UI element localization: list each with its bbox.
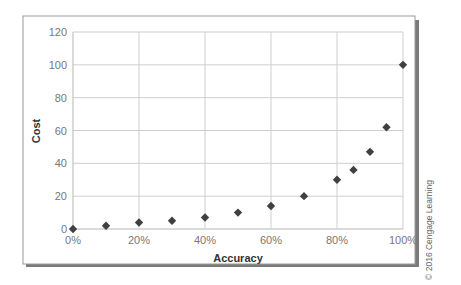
- y-tick-label: 80: [55, 92, 67, 104]
- x-tick-label: 80%: [326, 234, 348, 246]
- chart-figure: 020406080100120 0%20%40%60%80%100% Accur…: [0, 0, 461, 285]
- y-tick-label: 100: [49, 59, 67, 71]
- y-tick-label: 60: [55, 125, 67, 137]
- x-tick-label: 0%: [65, 234, 81, 246]
- copyright-notice: © 2016 Cengage Learning: [424, 180, 434, 280]
- y-tick-label: 40: [55, 157, 67, 169]
- x-tick-label: 60%: [260, 234, 282, 246]
- y-tick-label: 20: [55, 190, 67, 202]
- y-tick-label: 120: [49, 26, 67, 38]
- x-tick-label: 100%: [389, 234, 417, 246]
- x-axis-title: Accuracy: [213, 252, 263, 264]
- x-tick-label: 20%: [128, 234, 150, 246]
- y-axis-title: Cost: [30, 118, 42, 143]
- chart-frame: [23, 16, 415, 264]
- x-tick-label: 40%: [194, 234, 216, 246]
